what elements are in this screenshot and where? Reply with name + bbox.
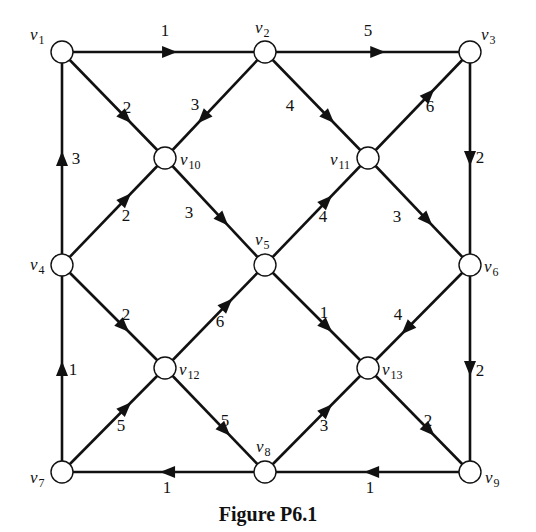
edge-weight: 3 bbox=[191, 95, 200, 114]
arrow-icon bbox=[464, 361, 476, 376]
node-label-v4: v4 bbox=[30, 255, 45, 277]
edge-v4-v12 bbox=[62, 265, 165, 368]
node-v3 bbox=[459, 41, 481, 63]
edge-v4-v10 bbox=[62, 158, 165, 265]
edge-weight: 5 bbox=[364, 21, 373, 40]
edge-v11-v3 bbox=[368, 52, 470, 158]
edge-weight: 2 bbox=[122, 305, 131, 324]
edge-weight: 5 bbox=[117, 416, 126, 435]
edge-weight: 6 bbox=[426, 97, 435, 116]
arrow-icon bbox=[464, 151, 476, 166]
node-label-v10: v10 bbox=[180, 150, 201, 172]
edge-weight: 2 bbox=[122, 206, 131, 225]
node-v10 bbox=[154, 147, 176, 169]
figure-caption: Figure P6.1 bbox=[0, 503, 536, 526]
node-label-v2: v2 bbox=[255, 18, 270, 40]
node-label-v1: v1 bbox=[30, 25, 45, 47]
node-v8 bbox=[254, 461, 276, 483]
node-v9 bbox=[459, 461, 481, 483]
node-v6 bbox=[459, 254, 481, 276]
edge-weight: 3 bbox=[320, 416, 329, 435]
edge-v2-v10 bbox=[165, 52, 265, 158]
edge-v5-v13 bbox=[265, 265, 368, 368]
edge-v6-v13 bbox=[368, 265, 470, 368]
edge-v1-v10 bbox=[62, 52, 165, 158]
directed-weighted-graph: 153212112346234326145532 v1v2v3v10v11v4v… bbox=[0, 0, 536, 532]
edge-weight: 3 bbox=[72, 149, 81, 168]
edge-weight: 1 bbox=[161, 21, 170, 40]
edge-weight: 1 bbox=[163, 478, 172, 497]
node-label-v3: v3 bbox=[481, 25, 496, 47]
node-v5 bbox=[254, 254, 276, 276]
arrow-icon bbox=[162, 46, 177, 58]
node-v11 bbox=[357, 147, 379, 169]
edge-weight: 4 bbox=[394, 305, 403, 324]
arrow-icon bbox=[56, 361, 68, 376]
node-label-v5: v5 bbox=[255, 230, 270, 252]
node-label-v6: v6 bbox=[484, 257, 499, 279]
node-label-v13: v13 bbox=[382, 360, 403, 382]
edge-v11-v6 bbox=[368, 158, 470, 265]
edge-weight: 1 bbox=[69, 360, 78, 379]
edge-v7-v12 bbox=[62, 368, 165, 472]
edge-weight: 2 bbox=[476, 361, 485, 380]
edge-v10-v5 bbox=[165, 158, 265, 265]
arrow-icon bbox=[364, 466, 379, 478]
arrow-icon bbox=[160, 466, 175, 478]
edge-v13-v9 bbox=[368, 368, 470, 472]
edge-weight: 2 bbox=[476, 148, 485, 167]
node-v4 bbox=[51, 254, 73, 276]
edge-v5-v11 bbox=[265, 158, 368, 265]
node-v1 bbox=[51, 41, 73, 63]
edge-weight: 3 bbox=[393, 207, 402, 226]
edge-weight: 2 bbox=[123, 98, 132, 117]
node-v2 bbox=[254, 41, 276, 63]
node-label-v12: v12 bbox=[179, 360, 200, 382]
node-label-v11: v11 bbox=[330, 150, 350, 172]
edge-weight: 4 bbox=[319, 207, 328, 226]
arrow-icon bbox=[370, 46, 385, 58]
edge-weights-layer: 153212112346234326145532 bbox=[69, 21, 485, 497]
arrow-icon bbox=[56, 151, 68, 166]
edge-weight: 1 bbox=[366, 478, 375, 497]
edge-v12-v8 bbox=[165, 368, 265, 472]
node-v7 bbox=[51, 461, 73, 483]
edge-weight: 4 bbox=[286, 96, 295, 115]
node-label-v9: v9 bbox=[485, 468, 500, 490]
node-v12 bbox=[154, 357, 176, 379]
node-v13 bbox=[357, 357, 379, 379]
node-label-v7: v7 bbox=[30, 468, 45, 490]
edge-weight: 6 bbox=[216, 312, 225, 331]
edge-weight: 2 bbox=[424, 411, 433, 430]
node-label-v8: v8 bbox=[256, 437, 271, 459]
edge-weight: 3 bbox=[185, 203, 194, 222]
edge-weight: 5 bbox=[221, 411, 230, 430]
edge-weight: 1 bbox=[320, 303, 329, 322]
edge-v8-v13 bbox=[265, 368, 368, 472]
edge-v2-v11 bbox=[265, 52, 368, 158]
